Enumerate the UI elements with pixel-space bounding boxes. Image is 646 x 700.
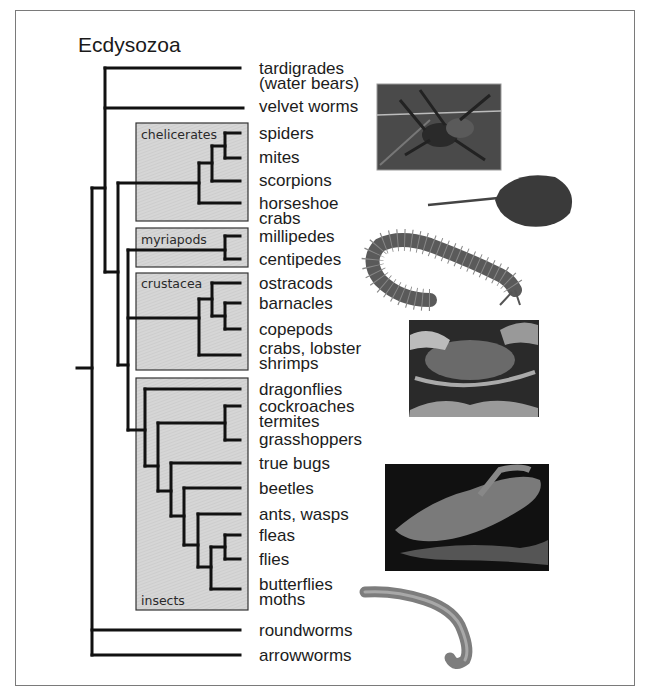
leaf-label-grasshoppers: grasshoppers bbox=[259, 432, 362, 447]
leaf-label-beetles: beetles bbox=[259, 481, 314, 496]
leaf-label-true-bugs: true bugs bbox=[259, 456, 330, 471]
clade-label-insects: insects bbox=[141, 593, 185, 608]
leaf-label-mites: mites bbox=[259, 150, 300, 165]
clade-box-myriapods: myriapods bbox=[136, 228, 248, 267]
leaf-label-ostracods: ostracods bbox=[259, 276, 333, 291]
leaf-label-centipedes: centipedes bbox=[259, 252, 341, 267]
spider-photo bbox=[377, 84, 501, 170]
centipede-photo bbox=[373, 240, 521, 305]
leaf-label-ants-wasps: ants, wasps bbox=[259, 507, 349, 522]
leaf-label-scorpions: scorpions bbox=[259, 173, 332, 188]
leaf-label-crabs-lobster-shrimps: crabs, lobster shrimps bbox=[259, 341, 361, 371]
leaf-label-velvet-worms: velvet worms bbox=[259, 99, 358, 114]
leaf-label-flies: flies bbox=[259, 552, 289, 567]
roundworm-photo bbox=[365, 592, 467, 664]
leaf-label-cockroaches-termites: cockroaches termites bbox=[259, 399, 354, 429]
clade-label-myriapods: myriapods bbox=[141, 232, 207, 247]
clade-box-chelicerates: chelicerates bbox=[136, 123, 248, 221]
horseshoe-crab-photo bbox=[428, 175, 572, 227]
leaf-label-spiders: spiders bbox=[259, 126, 314, 141]
crab-photo bbox=[409, 320, 539, 417]
leaf-label-butterflies-moths: butterflies moths bbox=[259, 577, 333, 607]
leaf-label-tardigrades: tardigrades (water bears) bbox=[259, 61, 359, 91]
leaf-label-horseshoe-crabs: horseshoe crabs bbox=[259, 196, 338, 226]
butterfly-photo bbox=[385, 464, 549, 571]
clade-box-insects: insects bbox=[136, 378, 248, 610]
clade-label-crustacea: crustacea bbox=[141, 276, 202, 291]
leaf-label-fleas: fleas bbox=[259, 528, 295, 543]
leaf-label-dragonflies: dragonflies bbox=[259, 382, 342, 397]
leaf-label-roundworms: roundworms bbox=[259, 623, 353, 638]
leaf-label-copepods: copepods bbox=[259, 322, 333, 337]
clade-label-chelicerates: chelicerates bbox=[141, 127, 217, 142]
leaf-label-arrowworms: arrowworms bbox=[259, 648, 352, 663]
leaf-label-barnacles: barnacles bbox=[259, 296, 333, 311]
leaf-label-millipedes: millipedes bbox=[259, 229, 335, 244]
